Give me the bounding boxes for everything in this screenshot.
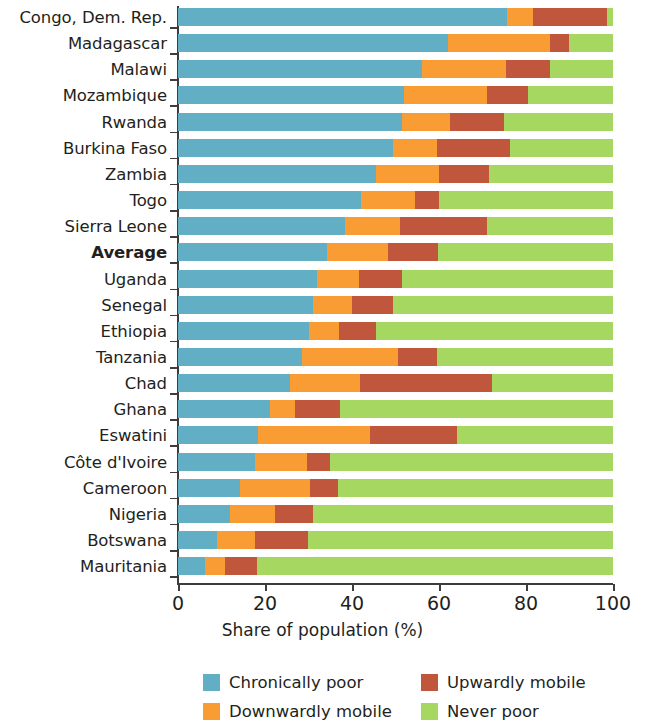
bar-segment [402, 270, 613, 288]
bar-segment [504, 113, 613, 131]
bar-segment [415, 191, 439, 209]
x-axis-tick-label: 80 [496, 592, 556, 614]
y-axis-tick [170, 498, 177, 500]
bar-segment [290, 374, 360, 392]
bar-segment [178, 426, 258, 444]
bar-segment [448, 34, 550, 52]
y-axis-label: Madagascar [0, 35, 167, 53]
bar-segment [317, 270, 358, 288]
y-axis-tick [170, 262, 177, 264]
x-axis-title: Share of population (%) [0, 620, 645, 640]
x-axis-tick [613, 584, 615, 591]
x-axis-tick [352, 584, 354, 591]
x-axis-tick-label: 20 [235, 592, 295, 614]
bar-segment [257, 557, 613, 575]
bar-row [178, 139, 613, 157]
bar-segment [437, 139, 510, 157]
bar-segment [398, 348, 437, 366]
bar-segment [376, 165, 439, 183]
y-axis-tick [170, 341, 177, 343]
y-axis-tick [170, 158, 177, 160]
bar-row [178, 191, 613, 209]
y-axis-tick [170, 419, 177, 421]
bar-segment [178, 113, 402, 131]
y-axis-label: Zambia [0, 166, 167, 184]
bar-segment [439, 165, 489, 183]
bar-segment [275, 505, 313, 523]
legend-item: Downwardly mobile [203, 702, 421, 721]
bar-segment [393, 296, 613, 314]
bar-segment [178, 348, 302, 366]
bar-segment [230, 505, 275, 523]
y-axis-label: Togo [0, 192, 167, 210]
bar-segment [360, 374, 492, 392]
bar-segment [178, 557, 205, 575]
bar-row [178, 426, 613, 444]
y-axis-label: Senegal [0, 297, 167, 315]
y-axis-tick [170, 105, 177, 107]
bar-segment [506, 60, 550, 78]
y-axis-label: Botswana [0, 532, 167, 550]
legend-row: Chronically poorUpwardly mobile [203, 668, 633, 697]
x-axis-tick-label: 40 [322, 592, 382, 614]
x-axis-tick-label: 100 [583, 592, 643, 614]
bar-row [178, 374, 613, 392]
y-axis-tick [170, 79, 177, 81]
y-axis-label: Malawi [0, 61, 167, 79]
bar-segment [361, 191, 415, 209]
bar-segment [313, 505, 613, 523]
bar-segment [255, 531, 308, 549]
bar-segment [302, 348, 398, 366]
bar-segment [404, 86, 487, 104]
bar-row [178, 505, 613, 523]
bar-segment [310, 479, 338, 497]
y-axis-label: Nigeria [0, 506, 167, 524]
bar-segment [492, 374, 613, 392]
bar-segment [178, 374, 290, 392]
bar-segment [370, 426, 457, 444]
bar-segment [487, 86, 528, 104]
bar-segment [178, 34, 448, 52]
y-axis-tick [170, 393, 177, 395]
bar-segment [327, 243, 388, 261]
bar-segment [345, 217, 399, 235]
bar-segment [607, 8, 613, 26]
bar-segment [550, 34, 570, 52]
bar-row [178, 479, 613, 497]
bar-segment [376, 322, 613, 340]
y-axis-tick [170, 289, 177, 291]
bar-segment [307, 453, 330, 471]
y-axis-tick [170, 210, 177, 212]
y-axis-label: Ghana [0, 401, 167, 419]
legend-swatch [421, 703, 438, 720]
bar-segment [178, 505, 230, 523]
bar-segment [330, 453, 613, 471]
y-axis-tick [170, 184, 177, 186]
bar-segment [178, 191, 361, 209]
bar-row [178, 400, 613, 418]
bar-segment [439, 191, 613, 209]
bar-segment [178, 400, 270, 418]
bar-row [178, 270, 613, 288]
stacked-bar-chart: Congo, Dem. Rep.MadagascarMalawiMozambiq… [0, 0, 645, 726]
bar-segment [402, 113, 450, 131]
bar-segment [339, 322, 376, 340]
y-axis-tick [170, 27, 177, 29]
y-axis-label: Average [0, 244, 167, 262]
bar-segment [340, 400, 613, 418]
bar-segment [178, 243, 327, 261]
bar-segment [550, 60, 613, 78]
plot-area [178, 8, 613, 583]
bar-segment [178, 322, 309, 340]
bar-segment [178, 479, 240, 497]
bar-row [178, 557, 613, 575]
bar-segment [388, 243, 438, 261]
legend-item: Chronically poor [203, 673, 421, 692]
x-axis-line [177, 583, 613, 585]
bar-segment [489, 165, 613, 183]
y-axis-tick [170, 472, 177, 474]
bar-segment [533, 8, 607, 26]
bar-segment [178, 8, 507, 26]
x-axis-tick [439, 584, 441, 591]
bar-segment [487, 217, 613, 235]
